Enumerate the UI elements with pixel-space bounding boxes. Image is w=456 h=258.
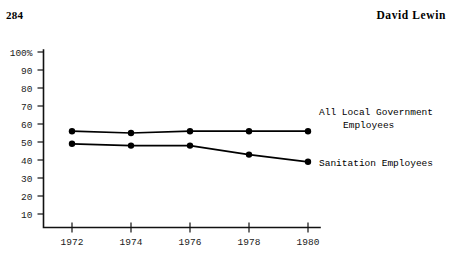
y-tick-label-20: 20 — [21, 192, 33, 203]
x-tick-label-1980: 1980 — [297, 237, 320, 248]
chart-canvas: 100%908070605040302010 19721974197619781… — [0, 0, 456, 258]
x-tick-label-1978: 1978 — [238, 237, 261, 248]
data-point — [187, 128, 193, 134]
y-tick-label-50: 50 — [21, 138, 33, 149]
x-axis-tick-labels: 19721974197619781980 — [61, 237, 320, 248]
series-label-all-local-government-line2: Employees — [343, 120, 394, 131]
series-label-all-local-government-line1: All Local Government — [319, 107, 433, 118]
data-point — [69, 128, 75, 134]
data-point — [246, 128, 252, 134]
y-tick-label-60: 60 — [21, 120, 33, 131]
data-point — [128, 142, 134, 148]
data-point — [187, 142, 193, 148]
y-tick-label-30: 30 — [21, 174, 33, 185]
y-tick-label-100: 100% — [10, 48, 33, 59]
x-tick-label-1972: 1972 — [61, 237, 84, 248]
data-point — [128, 130, 134, 136]
y-tick-label-90: 90 — [21, 66, 33, 77]
y-tick-label-40: 40 — [21, 156, 33, 167]
y-tick-label-10: 10 — [21, 210, 33, 221]
chart-series-points — [69, 128, 311, 165]
data-point — [246, 151, 252, 157]
series-label-sanitation-employees: Sanitation Employees — [319, 158, 433, 169]
chart-series-labels: All Local GovernmentEmployeesSanitation … — [319, 107, 433, 169]
y-axis-tick-labels: 100%908070605040302010 — [10, 48, 33, 221]
y-tick-label-70: 70 — [21, 102, 33, 113]
chart-axes — [44, 50, 321, 228]
x-tick-label-1974: 1974 — [120, 237, 143, 248]
data-point — [305, 128, 311, 134]
data-point — [69, 141, 75, 147]
y-axis-ticks — [38, 52, 44, 214]
data-point — [305, 159, 311, 165]
x-tick-label-1976: 1976 — [179, 237, 202, 248]
y-tick-label-80: 80 — [21, 84, 33, 95]
line-chart-figure: 100%908070605040302010 19721974197619781… — [0, 0, 456, 258]
